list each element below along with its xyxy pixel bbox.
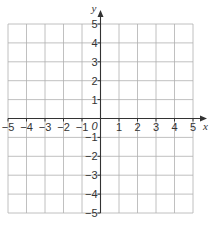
x-tick-label: −3 bbox=[39, 121, 52, 133]
x-tick-label: 1 bbox=[116, 121, 122, 133]
x-tick-label: −2 bbox=[57, 121, 70, 133]
y-axis-label: y bbox=[91, 2, 97, 14]
x-tick-label: 3 bbox=[153, 121, 159, 133]
y-tick-label: −1 bbox=[85, 131, 98, 143]
coordinate-plane: x y 0 −5−4−3−2−11234554321−1−2−3−4−5 bbox=[0, 0, 214, 229]
y-tick-label: 1 bbox=[91, 94, 97, 106]
origin-label: 0 bbox=[92, 120, 99, 132]
y-tick-label: 4 bbox=[91, 37, 97, 49]
axes: x y 0 bbox=[8, 2, 208, 213]
x-tick-label: −5 bbox=[2, 121, 15, 133]
y-tick-label: 2 bbox=[91, 75, 97, 87]
y-axis-arrow-icon bbox=[98, 10, 104, 17]
x-tick-label: 5 bbox=[190, 121, 196, 133]
y-tick-label: −4 bbox=[85, 188, 98, 200]
y-tick-label: 3 bbox=[91, 56, 97, 68]
x-tick-label: 2 bbox=[134, 121, 140, 133]
y-tick-label: −3 bbox=[85, 169, 98, 181]
x-axis-label: x bbox=[202, 120, 208, 132]
x-tick-label: 4 bbox=[171, 121, 177, 133]
x-tick-label: −4 bbox=[20, 121, 33, 133]
y-tick-label: −5 bbox=[85, 207, 98, 219]
y-tick-label: −2 bbox=[85, 150, 98, 162]
y-tick-label: 5 bbox=[91, 18, 97, 30]
